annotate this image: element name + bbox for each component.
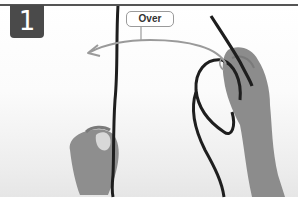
instruction-figure: 1 Over [0, 0, 298, 208]
rope-tail [193, 92, 224, 197]
top-rule [0, 4, 298, 6]
step-number-badge: 1 [10, 5, 44, 38]
callout-label-over: Over [126, 11, 174, 27]
illustration [0, 0, 298, 208]
